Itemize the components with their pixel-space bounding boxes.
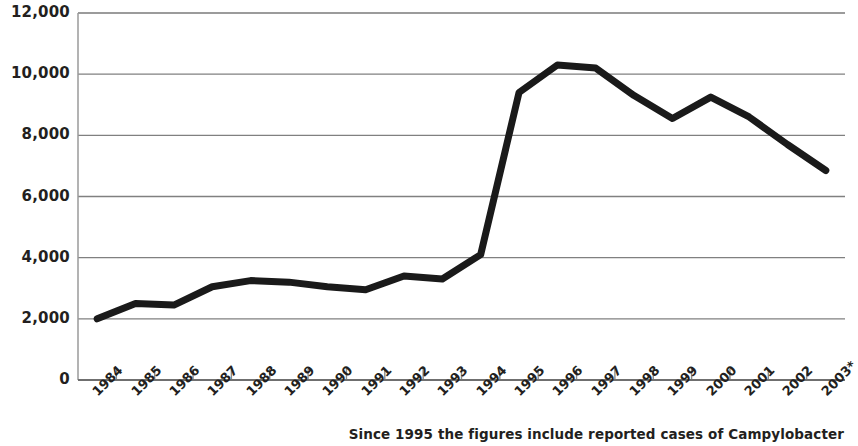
y-axis-tick-label: 6,000 <box>0 189 70 204</box>
y-axis-tick-label: 12,000 <box>0 5 70 20</box>
series-line-reported-cases <box>97 65 826 319</box>
chart-footnote: Since 1995 the figures include reported … <box>349 426 844 442</box>
y-axis-tick-label: 10,000 <box>0 66 70 81</box>
y-axis-tick-label: 0 <box>0 372 70 387</box>
y-axis-tick-label: 2,000 <box>0 311 70 326</box>
y-axis-tick-label: 8,000 <box>0 127 70 142</box>
y-axis-tick-label: 4,000 <box>0 250 70 265</box>
data-series-group <box>97 65 826 319</box>
gridlines-group <box>78 13 845 319</box>
